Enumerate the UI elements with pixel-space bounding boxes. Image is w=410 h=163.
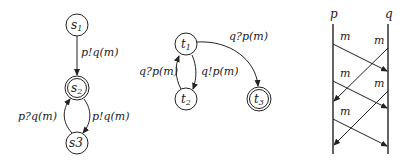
svg-text:m: m — [340, 30, 350, 43]
automaton-s: s1 s2 s3 p!q(m) p?q(m) p!q(m) — [18, 14, 130, 154]
state-t1: t1 — [175, 33, 197, 55]
transition-t2-t1: q?p(m) — [139, 56, 181, 89]
svg-text:t2: t2 — [181, 92, 191, 107]
message-5-p-to-q: m — [333, 105, 387, 146]
state-s2-final: s2 — [65, 76, 89, 100]
state-s1: s1 — [66, 14, 88, 36]
state-t3-final: t3 — [247, 87, 271, 111]
process-p-label: p — [330, 7, 338, 21]
svg-text:p!q(m): p!q(m) — [92, 110, 130, 123]
svg-text:s2: s2 — [71, 81, 82, 96]
transition-t1-t2: q!p(m) — [192, 55, 239, 89]
svg-text:t1: t1 — [181, 37, 191, 52]
svg-text:q!p(m): q!p(m) — [201, 65, 239, 78]
svg-text:m: m — [374, 77, 384, 90]
process-q-label: q — [385, 7, 393, 21]
transition-s3-s2: p?q(m) — [18, 99, 72, 133]
svg-text:m: m — [340, 67, 350, 80]
svg-text:s1: s1 — [71, 18, 82, 33]
state-s3: s3 — [66, 132, 88, 154]
transition-s2-s3: p!q(m) — [83, 99, 130, 133]
svg-text:s3: s3 — [69, 136, 83, 150]
svg-text:q?p(m): q?p(m) — [139, 65, 178, 78]
svg-text:m: m — [374, 34, 384, 47]
svg-text:q?p(m): q?p(m) — [229, 30, 268, 43]
message-sequence-chart: p q m m m m m — [330, 7, 393, 154]
state-t2: t2 — [175, 88, 197, 110]
svg-text:p?q(m): p?q(m) — [18, 110, 57, 123]
automaton-t: t1 t2 t3 q?p(m) q?p(m) q!p(m) — [139, 30, 271, 111]
transition-s1-s2: p!q(m) — [77, 36, 119, 75]
svg-text:p!q(m): p!q(m) — [81, 46, 119, 59]
svg-text:m: m — [340, 105, 350, 118]
svg-text:t3: t3 — [254, 92, 264, 107]
